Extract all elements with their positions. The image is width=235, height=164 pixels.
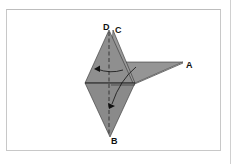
label-a: A — [186, 61, 193, 70]
label-b: B — [111, 137, 118, 146]
lower-triangle-b — [85, 83, 135, 137]
label-c: C — [115, 26, 122, 35]
upper-triangle-d — [85, 30, 133, 83]
label-d: D — [103, 23, 110, 32]
